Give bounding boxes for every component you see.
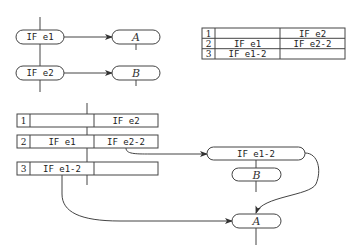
right-table: 1 IF e2 2 IF e1 IF e2-2 3 IF e1-2 <box>202 28 345 59</box>
bottom-row1-col2: IF e2 <box>112 116 139 126</box>
right-table-row2-col1: IF e1 <box>234 39 261 49</box>
node-b-bottom-label: B <box>251 169 260 182</box>
node-a-top-label: A <box>131 31 140 44</box>
right-table-row1-num: 1 <box>206 29 212 39</box>
node-a-bottom: A <box>232 214 281 228</box>
bottom-table-row-1: 1 IF e2 <box>17 114 158 127</box>
node-b-bottom: B <box>232 168 281 182</box>
bottom-row3-col1: IF e1-2 <box>43 164 81 174</box>
bottom-row2-col1: IF e1 <box>48 137 75 147</box>
bottom-flow: 1 IF e2 2 IF e1 IF e2-2 3 IF e1-2 IF <box>17 103 319 245</box>
bottom-row2-num: 2 <box>21 137 27 147</box>
arrow-e2-2-to-if-e1-2 <box>126 148 207 154</box>
node-if-e1: IF e1 <box>16 30 64 44</box>
bottom-table-row-2: 2 IF e1 IF e2-2 <box>17 135 158 148</box>
right-table-row3-col1: IF e1-2 <box>229 49 267 59</box>
top-flow: IF e1 A IF e2 B <box>16 17 160 92</box>
right-table-row1-col2: IF e2 <box>299 29 326 39</box>
node-if-e1-2: IF e1-2 <box>207 147 305 160</box>
node-b-top: B <box>112 66 160 80</box>
bottom-row1-num: 1 <box>21 116 27 126</box>
node-if-e1-2-label: IF e1-2 <box>237 149 275 159</box>
node-if-e1-label: IF e1 <box>26 32 53 42</box>
right-table-row2-num: 2 <box>206 39 212 49</box>
node-a-bottom-label: A <box>252 215 261 228</box>
flow-diagram: IF e1 A IF e2 B 1 IF e2 2 IF e1 IF e2-2 <box>0 0 355 252</box>
node-if-e2: IF e2 <box>16 66 64 80</box>
arrow-if-e1-2-to-a <box>256 153 319 213</box>
right-table-row2-col2: IF e2-2 <box>294 39 332 49</box>
node-a-top: A <box>112 30 160 44</box>
node-b-top-label: B <box>131 67 140 80</box>
bottom-row2-col2: IF e2-2 <box>107 137 145 147</box>
right-table-row3-num: 3 <box>206 49 212 59</box>
bottom-row3-num: 3 <box>21 164 27 174</box>
node-if-e2-label: IF e2 <box>26 68 53 78</box>
bottom-table-row-3: 3 IF e1-2 <box>17 162 158 175</box>
